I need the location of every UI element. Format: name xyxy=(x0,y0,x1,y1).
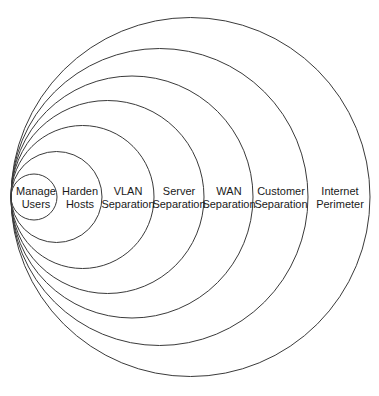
ring-label-server-separation: ServerSeparation xyxy=(152,185,205,210)
ring-label-line: Server xyxy=(152,185,205,198)
ring-label-line: Internet xyxy=(316,185,364,198)
ring-label-internet-perimeter: InternetPerimeter xyxy=(316,185,364,210)
ring-label-line: Separation xyxy=(202,197,255,210)
ring-label-line: Perimeter xyxy=(316,197,364,210)
ring-labels-layer: ManageUsersHardenHostsVLANSeparationServ… xyxy=(0,0,379,396)
ring-label-line: VLAN xyxy=(101,185,154,198)
ring-label-manage-users: ManageUsers xyxy=(16,185,56,210)
ring-label-customer-separation: CustomerSeparation xyxy=(254,185,307,210)
defense-in-depth-diagram: ManageUsersHardenHostsVLANSeparationServ… xyxy=(0,0,379,396)
ring-label-line: Users xyxy=(16,197,56,210)
ring-label-line: Manage xyxy=(16,185,56,198)
ring-label-line: Hosts xyxy=(62,197,98,210)
ring-label-line: Separation xyxy=(254,197,307,210)
ring-label-line: Customer xyxy=(254,185,307,198)
ring-label-wan-separation: WANSeparation xyxy=(202,185,255,210)
ring-label-line: WAN xyxy=(202,185,255,198)
ring-label-vlan-separation: VLANSeparation xyxy=(101,185,154,210)
ring-label-line: Separation xyxy=(101,197,154,210)
ring-label-harden-hosts: HardenHosts xyxy=(62,185,98,210)
ring-label-line: Harden xyxy=(62,185,98,198)
ring-label-line: Separation xyxy=(152,197,205,210)
